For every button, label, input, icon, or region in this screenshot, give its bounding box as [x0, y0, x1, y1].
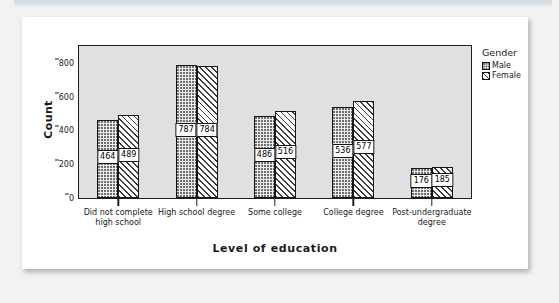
bar-value-label: 486 — [254, 148, 275, 162]
x-axis-category-label: Some college — [232, 208, 318, 218]
bar-group: 176185 — [411, 46, 453, 198]
x-axis-tick-mark — [353, 198, 354, 206]
x-axis-tick-mark — [196, 198, 197, 206]
bar-male: 787 — [176, 65, 197, 198]
y-axis-tick-label: 600 — [59, 92, 79, 101]
y-axis-title: Count — [42, 80, 55, 160]
bar-group: 536577 — [332, 46, 374, 198]
x-axis-category-label: Post-undergraduate degree — [389, 208, 475, 227]
y-axis-tick-mark — [55, 126, 59, 127]
y-axis-tick-label: 200 — [59, 160, 79, 169]
bar-group: 486516 — [254, 46, 296, 198]
y-axis-tick-mark — [55, 58, 59, 59]
y-axis-tick-label: 400 — [59, 126, 79, 135]
bar-group: 464489 — [97, 46, 139, 198]
bar-female: 784 — [197, 66, 218, 198]
x-axis-tick-mark — [117, 198, 118, 206]
bars-layer: 0200400600800464489Did not complete high… — [79, 46, 471, 198]
chart-card: Count Level of education 020040060080046… — [22, 17, 528, 269]
bar-female: 489 — [118, 115, 139, 198]
scan-top-strip — [14, 0, 552, 7]
legend-label-female: Female — [492, 71, 521, 80]
bar-female: 185 — [432, 167, 453, 198]
bar-value-label: 577 — [353, 140, 374, 154]
y-axis-tick-mark — [55, 160, 59, 161]
x-axis-tick-mark — [274, 198, 275, 206]
bar-value-label: 464 — [97, 150, 118, 164]
x-axis-category-label: Did not complete high school — [75, 208, 161, 227]
bar-male: 176 — [411, 168, 432, 198]
x-axis-tick-mark — [431, 198, 432, 206]
bar-group: 787784 — [176, 46, 218, 198]
chart-figure: Count Level of education 020040060080046… — [22, 17, 528, 269]
x-axis-category-label: College degree — [310, 208, 396, 218]
y-axis-tick-label: 800 — [59, 58, 79, 67]
bar-female: 516 — [275, 111, 296, 198]
bar-value-label: 516 — [275, 145, 296, 159]
x-axis-title: Level of education — [22, 242, 528, 255]
bar-male: 486 — [254, 116, 275, 198]
legend-item-male: Male — [482, 61, 540, 70]
legend-swatch-female-icon — [482, 72, 490, 80]
bar-value-label: 787 — [175, 123, 196, 137]
legend: Gender Male Female — [482, 47, 540, 81]
x-axis-category-label: High school degree — [154, 208, 240, 218]
plot-area: 0200400600800464489Did not complete high… — [78, 45, 472, 199]
bar-value-label: 536 — [332, 144, 353, 158]
bar-male: 464 — [97, 120, 118, 198]
legend-swatch-male-icon — [482, 62, 490, 70]
legend-title: Gender — [482, 47, 540, 58]
legend-item-female: Female — [482, 71, 540, 80]
bar-value-label: 176 — [411, 174, 432, 188]
y-axis-tick-mark — [65, 194, 69, 195]
bar-value-label: 784 — [196, 123, 217, 137]
bar-female: 577 — [353, 101, 374, 198]
y-axis-tick-label: 0 — [69, 194, 79, 203]
bar-value-label: 489 — [118, 148, 139, 162]
legend-label-male: Male — [492, 61, 511, 70]
y-axis-tick-mark — [55, 92, 59, 93]
bar-value-label: 185 — [432, 173, 453, 187]
bar-male: 536 — [332, 107, 353, 198]
